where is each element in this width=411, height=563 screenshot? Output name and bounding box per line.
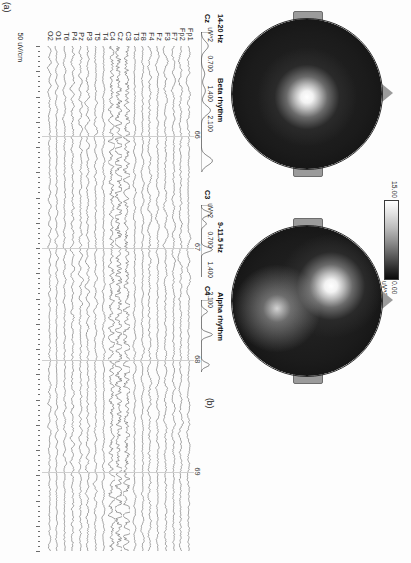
eeg-axis-tick <box>38 531 40 532</box>
eeg-axis-tick <box>36 122 40 123</box>
eeg-axis-tick <box>38 369 40 370</box>
eeg-gridline <box>42 136 194 137</box>
eeg-trace <box>92 46 99 551</box>
colorbar-max-label: 15.00 <box>391 168 398 198</box>
eeg-channel-label: C3 <box>124 0 133 41</box>
spectrum-y-unit-label: uV^2 <box>207 190 214 218</box>
eeg-trace <box>84 46 91 551</box>
eeg-axis-tick <box>36 450 40 451</box>
spectrum-y-tick-label: 0.700 <box>207 222 214 248</box>
spectrum-y-unit-label: uV^2 <box>207 14 214 42</box>
amplitude-scale-label: 50 uV/cm <box>17 2 24 62</box>
eeg-trace-row <box>121 46 122 551</box>
eeg-axis-tick <box>38 203 40 204</box>
eeg-channel-label: F3 <box>163 0 172 41</box>
panel-a-rotated-canvas: 66676869 Fp1Fp2F7F3FzF4F8T3C3CzC4T4T5P3P… <box>0 0 200 563</box>
eeg-axis-tick <box>38 162 40 163</box>
eeg-trace-row <box>52 46 53 551</box>
eeg-axis-tick <box>38 435 40 436</box>
eeg-trace <box>100 46 107 551</box>
panel-b-tag: (b) <box>205 398 215 408</box>
eeg-channel-label: P3 <box>85 0 94 41</box>
eeg-axis-tick <box>38 309 40 310</box>
eeg-axis-tick <box>36 223 40 224</box>
eeg-axis-tick <box>38 359 40 360</box>
eeg-axis-tick <box>36 324 40 325</box>
eeg-axis-tick <box>38 364 40 365</box>
eeg-trace <box>154 46 161 551</box>
eeg-axis-tick <box>38 420 40 421</box>
eeg-axis-tick <box>38 304 40 305</box>
eeg-axis-tick <box>38 137 40 138</box>
eeg-axis-tick <box>38 243 40 244</box>
spectrum-y-tick-label: 2.100 <box>207 106 214 132</box>
eeg-trace <box>46 46 53 551</box>
beta-rhythm-label: Beta rhythm <box>216 78 225 122</box>
eeg-axis-tick <box>38 379 40 380</box>
eeg-axis-tick <box>38 344 40 345</box>
eeg-axis-tick <box>38 233 40 234</box>
spectrum-y-tick-label: 1.400 <box>207 76 214 102</box>
figure-root: 66676869 Fp1Fp2F7F3FzF4F8T3C3CzC4T4T5P3P… <box>0 0 411 563</box>
eeg-axis-tick <box>38 177 40 178</box>
eeg-axis-tick <box>38 516 40 517</box>
eeg-axis-tick <box>38 107 40 108</box>
power-field-beta <box>232 19 382 169</box>
eeg-axis-tick <box>38 228 40 229</box>
eeg-axis-tick <box>36 475 40 476</box>
eeg-trace-row <box>152 46 153 551</box>
eeg-axis-tick <box>36 97 40 98</box>
eeg-channel-label: P4 <box>70 0 79 41</box>
eeg-channel-label: C4 <box>108 0 117 41</box>
eeg-trace <box>185 46 192 551</box>
eeg-channel-label: F4 <box>147 0 156 41</box>
eeg-axis-tick <box>38 213 40 214</box>
eeg-trace-row <box>98 46 99 551</box>
eeg-axis-tick <box>36 400 40 401</box>
eeg-axis-tick <box>38 511 40 512</box>
eeg-trace <box>131 46 138 551</box>
eeg-axis-tick <box>38 384 40 385</box>
eeg-trace-row <box>129 46 130 551</box>
eeg-axis-tick <box>38 61 40 62</box>
eeg-trace <box>108 46 115 551</box>
eeg-trace <box>53 46 60 551</box>
eeg-axis-tick <box>36 349 40 350</box>
spectrum-y-tick-label: 2.100 <box>207 282 214 308</box>
eeg-axis-tick <box>38 81 40 82</box>
eeg-trace <box>170 46 177 551</box>
eeg-axis-tick <box>38 238 40 239</box>
eeg-trace <box>123 46 130 551</box>
eeg-axis-tick <box>38 460 40 461</box>
eeg-axis-tick <box>36 71 40 72</box>
eeg-channel-label: Cz <box>116 0 125 41</box>
eeg-axis-tick <box>38 334 40 335</box>
eeg-trace-row <box>90 46 91 551</box>
eeg-trace-row <box>160 46 161 551</box>
eeg-gridline <box>42 472 194 473</box>
eeg-axis-tick <box>38 86 40 87</box>
eeg-channel-label: Fp1 <box>186 0 195 41</box>
eeg-trace <box>162 46 169 551</box>
eeg-axis-ticks <box>37 46 40 551</box>
eeg-axis-tick <box>38 490 40 491</box>
eeg-axis-tick <box>38 410 40 411</box>
power-field-alpha <box>232 226 382 376</box>
eeg-axis-tick <box>38 329 40 330</box>
eeg-axis-tick <box>38 415 40 416</box>
eeg-axis-tick <box>38 192 40 193</box>
eeg-trace-row <box>114 46 115 551</box>
head-map-beta <box>233 18 383 168</box>
eeg-axis-tick <box>36 374 40 375</box>
eeg-axis-tick <box>36 425 40 426</box>
scalp-field-beta <box>231 18 383 170</box>
nose-marker-icon <box>382 291 393 309</box>
eeg-trace <box>139 46 146 551</box>
eeg-axis-tick <box>38 263 40 264</box>
eeg-trace-row <box>137 46 138 551</box>
eeg-trace <box>61 46 68 551</box>
eeg-axis-tick <box>38 506 40 507</box>
alpha-rhythm-label: Alpha rhythm <box>216 292 225 341</box>
eeg-axis-tick <box>38 536 40 537</box>
eeg-axis-tick <box>38 455 40 456</box>
